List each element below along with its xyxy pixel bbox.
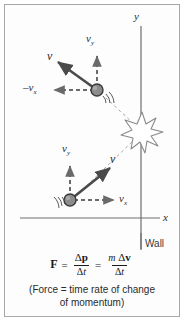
wall-label: Wall: [145, 238, 164, 249]
equation-equals-2: =: [95, 259, 101, 271]
equation-fraction-1: Δp Δt: [72, 252, 91, 277]
x-axis-label: x: [163, 212, 168, 223]
equation-denominator-2: Δt: [112, 265, 127, 278]
equation-numerator-1: Δp: [72, 252, 91, 265]
rebounding-ball-group: [54, 56, 114, 103]
rebound-vx-label: –vx: [23, 82, 37, 96]
equation-fraction-2: m Δv Δt: [105, 252, 134, 277]
incoming-ball: [64, 194, 76, 206]
caption-line-2: of momentum): [6, 297, 178, 310]
incoming-vy-label: vy: [62, 143, 70, 157]
rebound-v-label: v: [47, 50, 52, 62]
rebounding-ball-highlight: [93, 86, 97, 90]
figure-caption: (Force = time rate of change of momentum…: [6, 284, 178, 309]
incoming-vx-label: vx: [119, 193, 127, 207]
force-equation: F = Δp Δt = m Δv Δt: [0, 252, 184, 277]
rebound-vy-label: vy: [86, 33, 94, 47]
equation-equals-1: =: [62, 259, 68, 271]
caption-line-1: (Force = time rate of change: [6, 284, 178, 297]
rebounding-ball: [91, 84, 103, 96]
incoming-ball-group: [54, 166, 114, 208]
equation-denominator-1: Δt: [74, 265, 89, 278]
equation-numerator-2: m Δv: [105, 252, 134, 265]
incoming-v-label: v: [110, 153, 115, 165]
rebound-v-arrow: [58, 62, 97, 90]
y-axis-label: y: [134, 11, 139, 22]
equation-force-symbol: F: [50, 257, 57, 272]
physics-figure: y x Wall v vy –vx v vy vx F = Δp Δt = m …: [0, 0, 184, 321]
incoming-ball-highlight: [66, 196, 70, 200]
incoming-v-arrow: [70, 168, 110, 200]
